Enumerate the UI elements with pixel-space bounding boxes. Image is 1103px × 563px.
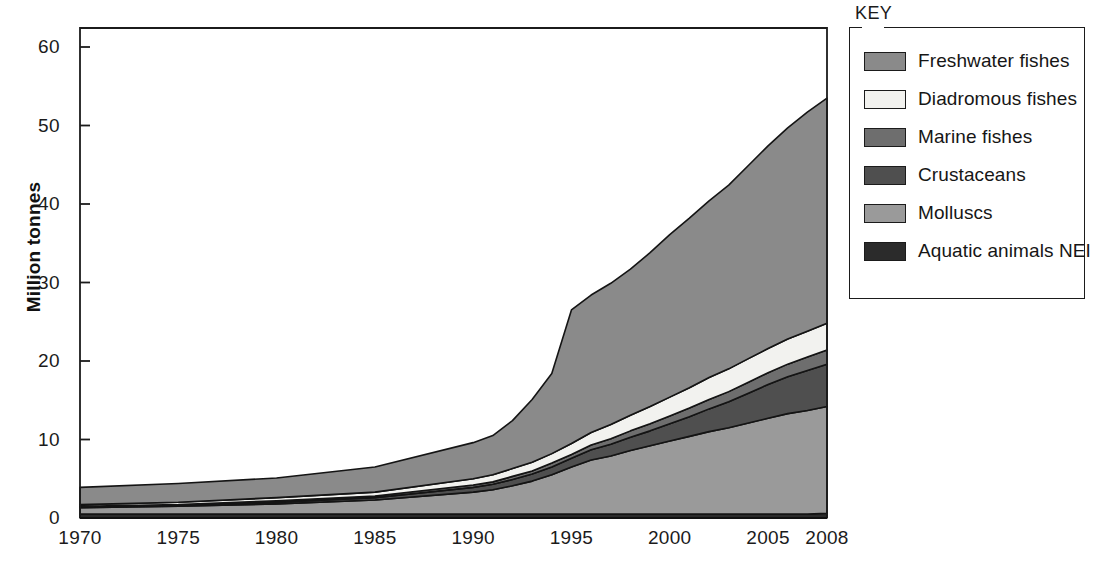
- stack-layers: [80, 98, 827, 518]
- x-tick-label: 1980: [255, 527, 298, 549]
- legend-item-label: Molluscs: [918, 202, 993, 224]
- legend-item-label: Marine fishes: [918, 126, 1032, 148]
- y-tick-label: 20: [14, 350, 60, 372]
- x-tick-label: 1970: [58, 527, 101, 549]
- y-tick-marks: [80, 47, 90, 440]
- legend-swatch: [864, 166, 906, 185]
- legend-swatch: [864, 242, 906, 261]
- plot-svg: [0, 0, 860, 563]
- legend-item-label: Crustaceans: [918, 164, 1026, 186]
- legend-item-label: Aquatic animals NEI: [918, 240, 1091, 262]
- y-tick-label: 60: [14, 36, 60, 58]
- x-tick-label: 1975: [157, 527, 200, 549]
- y-tick-label: 0: [14, 507, 60, 529]
- x-tick-label: 1990: [451, 527, 494, 549]
- chart-legend: Freshwater fishesDiadromous fishesMarine…: [849, 27, 1085, 299]
- legend-item-label: Diadromous fishes: [918, 88, 1077, 110]
- x-tick-label: 1985: [353, 527, 396, 549]
- legend-item[interactable]: Marine fishes: [850, 118, 1084, 156]
- legend-item[interactable]: Crustaceans: [850, 156, 1084, 194]
- y-tick-label: 10: [14, 429, 60, 451]
- legend-item[interactable]: Freshwater fishes: [850, 42, 1084, 80]
- y-tick-label: 40: [14, 193, 60, 215]
- legend-swatch: [864, 90, 906, 109]
- chart-page: Million tonnes 0102030405060 19701975198…: [0, 0, 1103, 563]
- legend-swatch: [864, 204, 906, 223]
- y-axis-title: Million tonnes: [23, 147, 45, 347]
- legend-swatch: [864, 128, 906, 147]
- y-tick-label: 50: [14, 115, 60, 137]
- legend-item[interactable]: Diadromous fishes: [850, 80, 1084, 118]
- stacked-area-chart: Million tonnes 0102030405060 19701975198…: [0, 0, 860, 563]
- x-tick-label: 1995: [550, 527, 593, 549]
- x-tick-label: 2008: [805, 527, 848, 549]
- legend-item[interactable]: Aquatic animals NEI: [850, 232, 1084, 270]
- legend-swatch: [864, 52, 906, 71]
- legend-item-label: Freshwater fishes: [918, 50, 1070, 72]
- x-tick-label: 2000: [648, 527, 691, 549]
- x-tick-label: 2005: [746, 527, 789, 549]
- legend-item[interactable]: Molluscs: [850, 194, 1084, 232]
- y-tick-label: 30: [14, 272, 60, 294]
- legend-title: KEY: [851, 3, 896, 24]
